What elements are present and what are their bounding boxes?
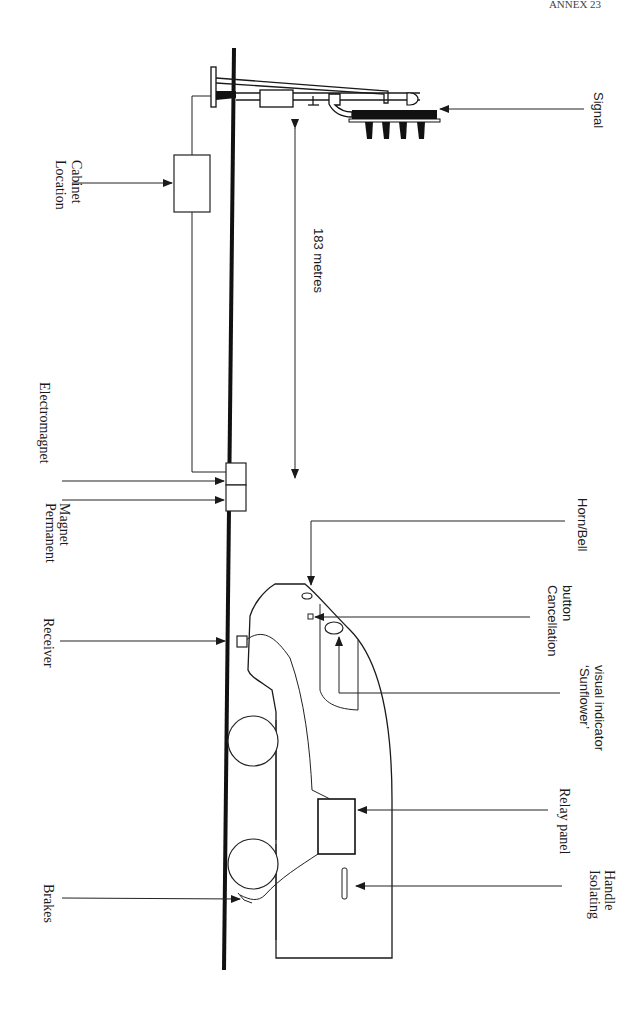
receiver-label: Receiver [41,618,56,668]
electromagnet [226,463,246,485]
isolating-handle [342,868,347,899]
relay-panel-label: Relay panel [557,788,572,855]
horn-bell-label: Horn/Bell [575,498,590,552]
brakes-label: Brakes [41,884,56,923]
relay-panel [318,799,355,854]
horn-bell [302,593,312,599]
receiver [237,636,247,647]
location-cabinet-label: Location Cabinet [53,160,84,213]
brakes-pointer [62,898,240,899]
brakes [238,893,252,903]
isolating-handle-label: Isolating Handle [587,870,617,923]
signal-label: Signal [591,92,606,128]
permanent-magnet [226,485,246,511]
cancellation-button [308,614,313,619]
aws-diagram: ANNEX 23 Signal Location [0,0,638,1014]
cancellation-button-label: Cancellation button [545,585,575,660]
page-header-fragment: ANNEX 23 [549,0,602,10]
location-cabinet [174,155,210,212]
front-wheel [228,716,278,766]
sunflower-label: ‘Sunflower’ visual indicator [577,665,607,752]
rear-wheel [228,839,278,889]
horn-bell-pointer [311,521,565,585]
distance-label: 183 metres [311,228,326,294]
electromagnet-label: Electromagnet [37,382,52,464]
sunflower-indicator [325,622,343,634]
permanent-magnet-label: Permanent Magnet [43,503,72,566]
signal-assembly [211,67,440,139]
train-outline [246,584,392,958]
